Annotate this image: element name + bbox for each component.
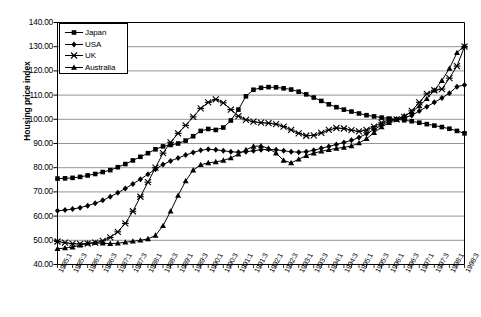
x-tick-label: 1995:1 (357, 251, 375, 274)
legend-label: Japan (85, 28, 106, 37)
data-point (72, 30, 77, 35)
legend-item: Japan (64, 27, 127, 39)
x-tick-label: 1995:3 (373, 251, 391, 274)
x-tick-label: 1998:3 (463, 251, 481, 274)
legend-item: Australia (64, 62, 127, 74)
legend-marker-diamond (64, 39, 84, 50)
legend-label: Australia (85, 63, 115, 72)
legend-item: UK (64, 50, 127, 62)
legend-label: UK (85, 51, 96, 60)
legend-marker-cross (64, 50, 84, 61)
legend-marker-square (64, 27, 84, 38)
legend-label: USA (85, 40, 101, 49)
data-point (71, 41, 76, 47)
data-point (71, 53, 78, 59)
x-tick-label: 1988:1 (146, 251, 164, 274)
legend-marker-triangle (64, 62, 84, 73)
chart-legend: JapanUSAUKAustralia (59, 23, 128, 74)
legend-item: USA (64, 39, 127, 51)
x-tick-label: 1988:3 (162, 251, 180, 274)
